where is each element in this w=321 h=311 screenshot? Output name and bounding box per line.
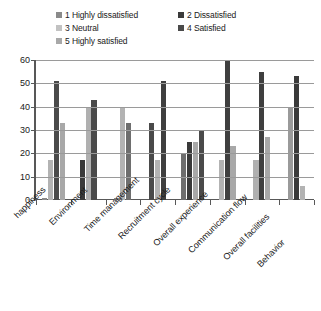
legend-label: 2 Dissatisfied — [187, 9, 236, 21]
gridline — [36, 60, 314, 61]
legend-row: 3 Neutral 4 Satisfied — [56, 22, 306, 35]
bar — [161, 81, 166, 200]
legend-item-5: 5 Highly satisfied — [56, 35, 178, 47]
y-tick-mark — [31, 83, 35, 84]
bar — [265, 137, 270, 200]
legend-label: 1 Highly dissatisfied — [65, 9, 138, 21]
legend-item-3: 3 Neutral — [56, 22, 178, 34]
y-tick-mark — [31, 130, 35, 131]
bar — [60, 123, 65, 200]
legend-item-2: 2 Dissatisfied — [178, 9, 236, 21]
legend-label: 5 Highly satisfied — [65, 35, 127, 47]
x-axis-labels: happinessEnvironmentTime managementRecru… — [0, 205, 321, 311]
gridline — [36, 83, 314, 84]
y-tick-label: 10 — [20, 172, 30, 181]
y-tick-label: 50 — [20, 79, 30, 88]
chart-legend: 1 Highly dissatisfied 2 Dissatisfied 3 N… — [56, 9, 306, 48]
y-tick-label: 20 — [20, 149, 30, 158]
y-tick-mark — [31, 107, 35, 108]
bar — [294, 76, 299, 200]
legend-swatch-icon — [56, 12, 62, 18]
y-tick-mark — [31, 177, 35, 178]
gridline — [36, 107, 314, 108]
plot-area — [36, 60, 314, 200]
bar — [149, 123, 154, 200]
bar — [42, 198, 47, 200]
legend-label: 4 Satisfied — [187, 22, 226, 34]
y-tick-mark — [31, 153, 35, 154]
legend-label: 3 Neutral — [65, 22, 99, 34]
y-tick-mark — [31, 60, 35, 61]
legend-item-4: 4 Satisfied — [178, 22, 226, 34]
bar-chart: 1 Highly dissatisfied 2 Dissatisfied 3 N… — [0, 0, 321, 311]
bar — [91, 100, 96, 200]
bar — [187, 142, 192, 200]
legend-swatch-icon — [56, 25, 62, 31]
x-axis-label: Behavior — [255, 237, 287, 269]
y-tick-label: 30 — [20, 126, 30, 135]
legend-swatch-icon — [178, 12, 184, 18]
y-axis: 0102030405060 — [0, 60, 33, 200]
bar — [48, 160, 53, 200]
gridline — [36, 153, 314, 154]
bar — [259, 72, 264, 200]
legend-swatch-icon — [56, 38, 62, 44]
gridline — [36, 130, 314, 131]
bar — [253, 160, 258, 200]
legend-item-1: 1 Highly dissatisfied — [56, 9, 178, 21]
plot-wrapper: 0102030405060 — [0, 60, 321, 208]
legend-row: 5 Highly satisfied — [56, 35, 306, 48]
bar — [300, 186, 305, 200]
bar — [230, 146, 235, 200]
bar — [193, 142, 198, 200]
gridline — [36, 177, 314, 178]
legend-row: 1 Highly dissatisfied 2 Dissatisfied — [56, 9, 306, 22]
bar — [219, 160, 224, 200]
y-tick-label: 60 — [20, 56, 30, 65]
y-tick-label: 40 — [20, 102, 30, 111]
bar — [54, 81, 59, 200]
legend-swatch-icon — [178, 25, 184, 31]
